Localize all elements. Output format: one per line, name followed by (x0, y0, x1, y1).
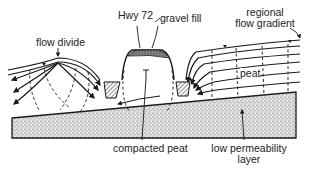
label-low-permeability-layer: low permeability layer (204, 143, 294, 165)
right-ditch-hatch (176, 82, 190, 96)
label-regional-flow-gradient: regional flow gradient (225, 7, 305, 29)
label-gravel-fill: gravel fill (160, 13, 201, 24)
left-peat-flowlines (8, 58, 100, 104)
label-regional-line2: flow gradient (225, 18, 305, 29)
label-low-perm-line2: layer (204, 154, 294, 165)
label-flow-divide: flow divide (36, 37, 85, 48)
low-permeability-layer (12, 92, 296, 138)
label-hwy-72: Hwy 72 (118, 10, 153, 21)
left-equipotential-lines (30, 68, 89, 112)
label-peat: peat (240, 68, 260, 79)
left-ditch-hatch (104, 82, 120, 98)
label-compacted-peat: compacted peat (113, 143, 188, 154)
